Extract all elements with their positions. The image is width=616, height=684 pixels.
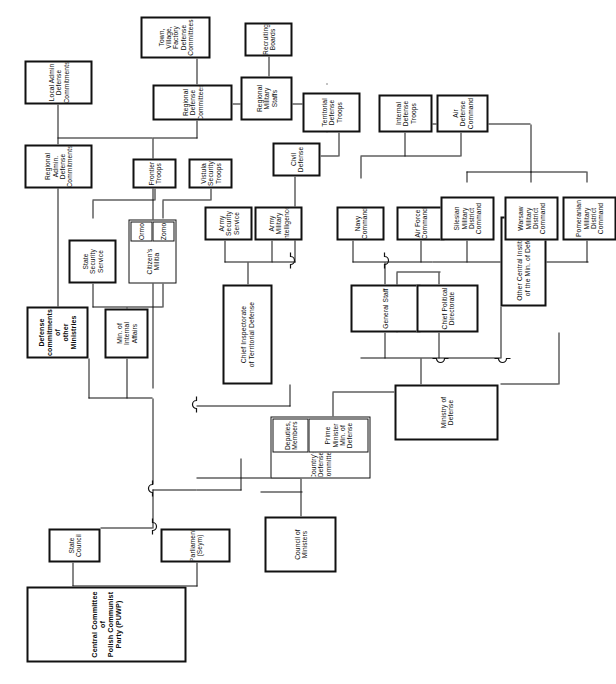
node-countrys-defense-committee[interactable]: Country's Defense Committee bbox=[272, 452, 368, 476]
node-min-internal-affairs-label: Min. of Internal Affairs bbox=[115, 311, 137, 355]
edge-pm-right bbox=[332, 392, 333, 416]
edge-rdc-to-town bbox=[196, 58, 197, 84]
node-air-defense-command[interactable]: Air Defense Command bbox=[436, 94, 488, 132]
edge-ci-left-v bbox=[196, 405, 290, 406]
edge-ci-out-top bbox=[247, 262, 248, 284]
edge-vst-in bbox=[210, 188, 211, 200]
edge-navy-to-bus bbox=[360, 156, 361, 178]
node-civil-defense[interactable]: Civil Defense bbox=[272, 142, 320, 176]
node-frontier-troops[interactable]: Frontier Troops bbox=[132, 158, 176, 188]
edge-mod-out-gs bbox=[420, 358, 421, 384]
node-chief-inspectorate-label: Chief Inspectorate of Territorial Defens… bbox=[239, 301, 254, 367]
node-state-council[interactable]: State Council bbox=[48, 528, 100, 562]
edge-ci-to-cd-v bbox=[271, 261, 295, 262]
node-pomeranian-military-district-command[interactable]: Pomeranian Military District Command bbox=[562, 196, 616, 240]
node-prime-minister[interactable]: Prime Minister Min. of Defense bbox=[308, 418, 368, 452]
edge-ci-to-ass bbox=[224, 240, 225, 262]
node-warsaw-military-district-command[interactable]: Warsaw Military District Command bbox=[504, 196, 558, 240]
node-general-staff[interactable]: General Staff bbox=[350, 284, 420, 332]
node-recruiting-boards[interactable]: Recruiting Boards bbox=[244, 22, 292, 56]
node-civil-defense-label: Civil Defense bbox=[289, 146, 304, 171]
edge-com-stem bbox=[260, 491, 302, 492]
edge-cd-down bbox=[320, 155, 338, 156]
node-army-security-service[interactable]: Army Security Service bbox=[204, 206, 252, 240]
node-parliament[interactable]: Parliament (Seym) bbox=[160, 528, 230, 562]
node-regional-defense-committees-label: Regional Defense Committees bbox=[181, 84, 203, 120]
node-central-committee[interactable]: Central Committee of Polish Communist Pa… bbox=[26, 586, 186, 662]
node-silesian-military-district-command[interactable]: Silesian Military District Command bbox=[440, 196, 494, 240]
node-defense-commitments-other-ministries[interactable]: Defense commitments of other Ministries bbox=[26, 306, 88, 358]
edge-rms-to-rb bbox=[268, 56, 269, 76]
node-internal-defense-troops-label: Internal Defense Troops bbox=[394, 97, 416, 129]
edge-smdc-chain bbox=[466, 171, 467, 182]
node-deputies-members[interactable]: Deputies, Members bbox=[272, 418, 308, 452]
edge-mia-split bbox=[92, 306, 162, 307]
edge-oci-loop-v bbox=[500, 383, 558, 384]
edge-cpd-loop-v bbox=[396, 271, 440, 272]
node-navy-command-label: Navy Command bbox=[353, 207, 368, 238]
edge-mod-to-oci bbox=[500, 306, 501, 358]
edge-upper-bus bbox=[152, 489, 153, 528]
edge-gs-to-navy bbox=[352, 240, 353, 262]
edge-mia-to-sss bbox=[92, 283, 93, 307]
edge-cm-to-vst bbox=[162, 200, 163, 218]
node-air-force-command-label: Air Force Command bbox=[413, 207, 428, 238]
edge-mod-to-cpd bbox=[438, 332, 439, 358]
node-navy-command[interactable]: Navy Command bbox=[336, 206, 384, 240]
edge-ci-to-ami bbox=[271, 240, 272, 262]
edge-mia-to-cm bbox=[162, 283, 163, 307]
node-zomo-label: Zomo bbox=[159, 222, 166, 239]
edge-main-bus-right bbox=[152, 398, 153, 484]
node-regional-military-staffs[interactable]: Regional Military Staffs bbox=[240, 76, 292, 120]
node-chief-inspectorate[interactable]: Chief Inspectorate of Territorial Defens… bbox=[222, 284, 272, 384]
node-pomeranian-military-district-command-label: Pomeranian Military District Command bbox=[574, 199, 604, 237]
node-ministry-of-defense-label: Ministry of Defense bbox=[439, 387, 454, 437]
node-ministry-of-defense[interactable]: Ministry of Defense bbox=[394, 384, 498, 440]
node-deputies-members-label: Deputies, Members bbox=[283, 420, 298, 449]
node-ormo[interactable]: Ormo bbox=[130, 221, 152, 241]
node-regional-defense-committees[interactable]: Regional Defense Committees bbox=[152, 84, 232, 120]
edge-sss-to-ft bbox=[92, 200, 93, 218]
node-territorial-defense-troops[interactable]: Territorial Defense Troops bbox=[302, 92, 360, 132]
edge-gs-to-smdc bbox=[466, 240, 467, 262]
edge-mod-to-gs bbox=[384, 332, 385, 358]
node-air-force-command[interactable]: Air Force Command bbox=[396, 206, 444, 240]
node-regional-admin-defense-commitments[interactable]: Regional Admin. Defense Commitments bbox=[24, 144, 92, 188]
node-council-of-ministers[interactable]: Council of Ministers bbox=[264, 516, 336, 572]
edge-rdc-stem bbox=[152, 137, 197, 138]
node-parliament-label: Parliament (Seym) bbox=[188, 529, 203, 562]
node-state-security-service[interactable]: State Security Service bbox=[68, 239, 116, 283]
node-central-committee-label: Central Committee of Polish Communist Pa… bbox=[90, 589, 122, 659]
node-local-admin-defense-commitments[interactable]: Local Admin Defense Commitments bbox=[24, 60, 92, 104]
node-warsaw-military-district-command-label: Warsaw Military District Command bbox=[516, 199, 546, 237]
node-general-staff-label: General Staff bbox=[381, 288, 388, 328]
node-local-admin-defense-commitments-label: Local Admin Defense Commitments bbox=[47, 61, 69, 103]
node-citizens-militia-label: Citizen's Militia bbox=[145, 248, 160, 274]
node-army-military-intelligence[interactable]: Army Military Intelligence bbox=[254, 206, 302, 240]
node-state-security-service-label: State Security Service bbox=[81, 249, 103, 274]
node-chief-political-directorate[interactable]: Chief Political Directorate bbox=[416, 284, 478, 332]
edge-parliament-to-com bbox=[240, 458, 241, 490]
node-vistula-security-troops[interactable]: Vistula Security Troops bbox=[188, 158, 232, 188]
node-chief-political-directorate-label: Chief Political Directorate bbox=[440, 287, 455, 329]
node-air-defense-command-label: Air Defense Command bbox=[451, 97, 473, 129]
node-citizens-militia[interactable]: Citizen's Militia bbox=[130, 241, 174, 281]
edge-gs-to-af bbox=[420, 240, 421, 262]
node-vistula-security-troops-label: Vistula Security Troops bbox=[199, 161, 221, 186]
edge-cpd-out bbox=[438, 272, 439, 284]
node-zomo[interactable]: Zomo bbox=[152, 221, 174, 241]
edge-rdc-in bbox=[196, 120, 197, 138]
edge-pm-right-v bbox=[332, 391, 394, 392]
node-defense-commitments-other-ministries-label: Defense commitments of other Ministries bbox=[37, 308, 76, 355]
node-prime-minister-label: Prime Minister Min. of Defense bbox=[323, 420, 353, 450]
node-internal-defense-troops[interactable]: Internal Defense Troops bbox=[378, 94, 432, 132]
node-council-of-ministers-label: Council of Ministers bbox=[293, 519, 308, 569]
edge-bus-to-mia-h bbox=[88, 358, 89, 398]
edge-ci-left bbox=[289, 384, 290, 406]
node-town-village-factory-defense-committees[interactable]: Town, Village, Factory Defense Committee… bbox=[140, 16, 210, 58]
edge-cc-to-parliament bbox=[196, 562, 197, 586]
node-min-internal-affairs[interactable]: Min. of Internal Affairs bbox=[104, 308, 148, 358]
edge-mdc-chain-top bbox=[530, 124, 531, 172]
